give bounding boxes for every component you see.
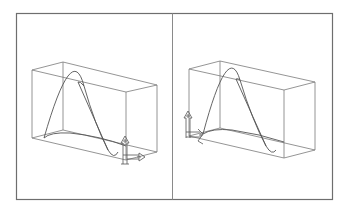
figure-frame [0,0,345,210]
figure-canvas [0,0,345,210]
outer-border [17,14,333,200]
